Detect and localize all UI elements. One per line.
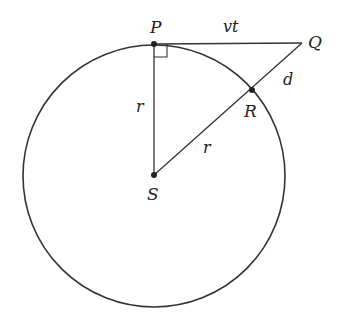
label-r-ps: r (136, 97, 145, 116)
label-s: S (147, 184, 159, 204)
label-p: P (149, 17, 162, 37)
label-r-sr: r (203, 138, 212, 157)
point-r (249, 87, 255, 93)
label-d: d (283, 70, 293, 89)
point-s (151, 172, 157, 178)
label-q: Q (308, 32, 322, 52)
circle-tangent-diagram: P Q R S vt d r r (0, 0, 337, 324)
point-p (151, 41, 157, 47)
segment-sq (154, 43, 302, 175)
segment-pq (154, 43, 302, 44)
label-r: R (243, 101, 257, 121)
label-vt: vt (223, 17, 239, 36)
